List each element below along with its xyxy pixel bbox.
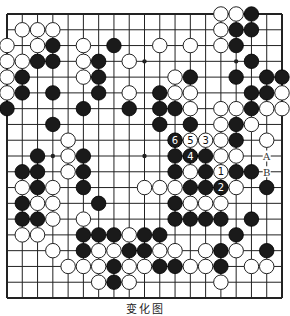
white-stone <box>214 196 228 210</box>
black-stone <box>15 196 29 210</box>
white-stone <box>244 259 258 273</box>
black-stone <box>122 243 136 257</box>
white-stone <box>76 70 90 84</box>
black-stone <box>168 101 182 115</box>
white-stone <box>46 23 60 37</box>
white-stone <box>61 133 75 147</box>
black-stone <box>259 243 273 257</box>
black-stone <box>229 165 243 179</box>
black-stone <box>214 212 228 226</box>
black-stone <box>259 70 273 84</box>
move-number: 2 <box>218 182 224 193</box>
black-stone <box>244 7 258 21</box>
diagram-caption: 变化图 <box>0 300 290 316</box>
black-stone <box>137 243 151 257</box>
black-stone <box>259 86 273 100</box>
white-stone <box>229 149 243 163</box>
white-stone <box>15 180 29 194</box>
black-stone <box>198 165 212 179</box>
black-stone <box>107 38 121 52</box>
white-stone <box>168 243 182 257</box>
black-stone <box>15 86 29 100</box>
white-stone <box>183 101 197 115</box>
white-stone <box>30 196 44 210</box>
white-stone <box>61 165 75 179</box>
white-stone <box>91 243 105 257</box>
black-stone <box>244 212 258 226</box>
black-stone <box>30 149 44 163</box>
white-stone <box>244 117 258 131</box>
black-stone <box>15 70 29 84</box>
black-stone <box>46 86 60 100</box>
white-stone <box>153 38 167 52</box>
black-stone <box>46 117 60 131</box>
black-stone <box>168 212 182 226</box>
white-stone <box>61 259 75 273</box>
white-stone <box>0 54 14 68</box>
black-stone <box>244 86 258 100</box>
white-stone <box>137 259 151 273</box>
black-stone <box>46 38 60 52</box>
white-stone <box>122 228 136 242</box>
white-stone <box>214 7 228 21</box>
white-stone <box>107 243 121 257</box>
black-stone <box>0 101 14 115</box>
black-stone <box>214 259 228 273</box>
black-stone <box>275 70 289 84</box>
black-stone <box>198 149 212 163</box>
black-stone <box>30 54 44 68</box>
white-stone <box>214 133 228 147</box>
white-stone <box>0 70 14 84</box>
white-stone <box>275 101 289 115</box>
star-point <box>142 59 146 63</box>
black-stone <box>229 23 243 37</box>
black-stone <box>91 228 105 242</box>
white-stone <box>229 180 243 194</box>
black-stone <box>91 86 105 100</box>
white-stone <box>15 23 29 37</box>
black-stone <box>229 117 243 131</box>
black-stone <box>153 117 167 131</box>
black-stone <box>244 101 258 115</box>
white-stone <box>168 180 182 194</box>
black-stone <box>183 180 197 194</box>
white-stone <box>259 101 273 115</box>
white-stone <box>183 86 197 100</box>
white-stone <box>198 259 212 273</box>
star-point <box>142 154 146 158</box>
black-stone <box>91 70 105 84</box>
black-stone <box>198 180 212 194</box>
black-stone <box>76 165 90 179</box>
white-stone <box>122 259 136 273</box>
black-stone <box>76 101 90 115</box>
white-stone <box>168 70 182 84</box>
move-number: 5 <box>187 135 193 146</box>
white-stone <box>46 212 60 226</box>
black-stone <box>183 212 197 226</box>
black-stone <box>168 259 182 273</box>
black-stone <box>168 165 182 179</box>
black-stone <box>183 117 197 131</box>
white-stone <box>0 38 14 52</box>
white-stone <box>214 275 228 289</box>
move-number: 4 <box>187 151 193 162</box>
white-stone <box>229 101 243 115</box>
white-stone <box>30 38 44 52</box>
black-stone <box>137 228 151 242</box>
black-stone <box>244 23 258 37</box>
black-stone <box>214 243 228 257</box>
black-stone <box>229 228 243 242</box>
black-stone <box>229 70 243 84</box>
black-stone <box>107 259 121 273</box>
white-stone <box>153 180 167 194</box>
white-stone <box>198 243 212 257</box>
white-stone <box>76 212 90 226</box>
black-stone <box>153 101 167 115</box>
white-stone <box>76 54 90 68</box>
black-stone <box>168 196 182 210</box>
black-stone <box>76 149 90 163</box>
black-stone <box>91 196 105 210</box>
white-stone <box>198 196 212 210</box>
black-stone <box>244 54 258 68</box>
